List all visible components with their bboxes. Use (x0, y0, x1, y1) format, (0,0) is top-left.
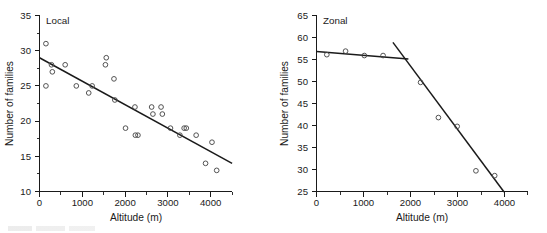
zonal-xtick-label: 1000 (353, 197, 374, 208)
data-point (86, 91, 91, 96)
local-xtick-label: 3000 (157, 197, 178, 208)
data-point (160, 112, 165, 117)
local-ytick-label: 10 (20, 186, 31, 197)
local-fit-lines (40, 58, 233, 164)
local-ytick-label: 15 (20, 151, 31, 162)
zonal-ytick-label: 55 (297, 54, 308, 65)
local-y-ticks (35, 16, 40, 192)
data-point (151, 112, 156, 117)
zonal-plot-svg: 65 60 55 50 45 40 35 30 25 0 1000 (272, 0, 547, 233)
data-point (149, 105, 154, 110)
data-point (203, 161, 208, 166)
local-xtick-label: 4000 (200, 197, 221, 208)
data-point (74, 84, 79, 89)
caption-fragment (8, 226, 158, 231)
local-plot-svg: 35 30 25 20 15 10 0 1000 2000 (0, 0, 272, 233)
fit-line-decline-segment (393, 42, 504, 192)
data-point (112, 77, 117, 82)
data-point (492, 173, 497, 178)
zonal-ytick-label: 40 (297, 120, 308, 131)
data-point (474, 168, 479, 173)
local-x-axis-title: Altitude (m) (110, 212, 162, 223)
chart-panel-zonal: 65 60 55 50 45 40 35 30 25 0 1000 (272, 0, 547, 233)
zonal-x-ticks (317, 192, 528, 197)
data-point (133, 105, 138, 110)
data-point (214, 168, 219, 173)
data-point (104, 55, 109, 60)
local-xtick-label: 2000 (114, 197, 135, 208)
zonal-x-axis-title: Altitude (m) (396, 212, 448, 223)
zonal-ytick-label: 65 (297, 10, 308, 21)
zonal-xtick-label: 2000 (400, 197, 421, 208)
local-ytick-label: 25 (20, 80, 31, 91)
zonal-ytick-label: 50 (297, 76, 308, 87)
chart-panel-local: 35 30 25 20 15 10 0 1000 2000 (0, 0, 272, 233)
data-point (194, 133, 199, 138)
local-panel-label: Local (46, 15, 69, 26)
zonal-ytick-label: 45 (297, 98, 308, 109)
local-y-axis-title: Number of families (4, 61, 15, 146)
zonal-data-points (324, 49, 497, 178)
zonal-xtick-label: 4000 (494, 197, 515, 208)
local-x-ticks (40, 192, 233, 197)
data-point (50, 69, 55, 74)
data-point (44, 84, 49, 89)
data-point (44, 41, 49, 46)
zonal-ytick-label: 35 (297, 142, 308, 153)
data-point (159, 105, 164, 110)
zonal-y-axis-title: Number of families (279, 61, 290, 146)
fit-line-linear-regression (40, 58, 233, 164)
local-xtick-label: 1000 (72, 197, 93, 208)
zonal-fit-lines (317, 42, 505, 192)
local-xtick-label: 0 (37, 197, 42, 208)
zonal-ytick-label: 30 (297, 164, 308, 175)
data-point (123, 126, 128, 131)
local-ytick-label: 35 (20, 10, 31, 21)
local-ytick-label: 30 (20, 45, 31, 56)
data-point (210, 140, 215, 145)
zonal-xtick-label: 0 (314, 197, 319, 208)
data-point (343, 49, 348, 54)
figure-container: 35 30 25 20 15 10 0 1000 2000 (0, 0, 547, 233)
zonal-ytick-label: 25 (297, 186, 308, 197)
local-data-points (44, 41, 219, 172)
data-point (63, 62, 68, 67)
data-point (436, 115, 441, 120)
local-ytick-label: 20 (20, 115, 31, 126)
zonal-panel-label: Zonal (323, 15, 348, 26)
zonal-xtick-label: 3000 (447, 197, 468, 208)
data-point (103, 62, 108, 67)
zonal-y-ticks (312, 16, 317, 192)
zonal-ytick-label: 60 (297, 32, 308, 43)
